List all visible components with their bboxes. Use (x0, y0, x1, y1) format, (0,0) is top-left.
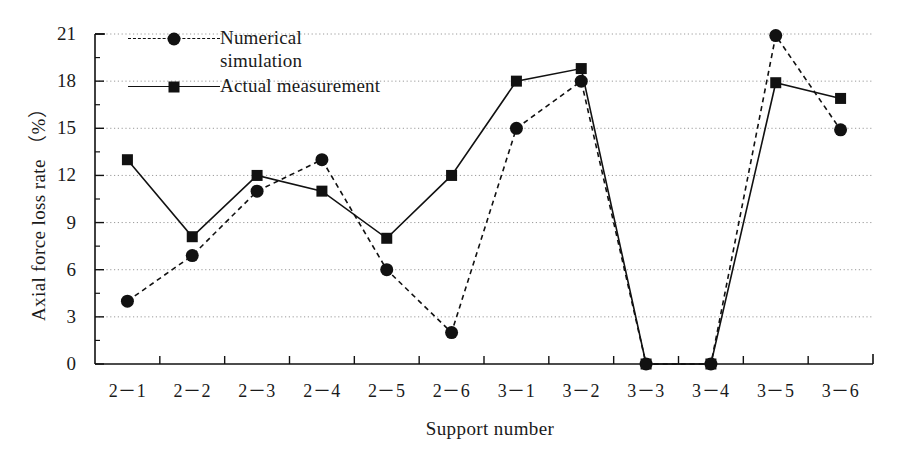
data-point-circle (445, 326, 458, 339)
x-tick-label: 2－5 (354, 376, 419, 402)
data-point-circle (769, 29, 782, 42)
legend-label-line1: Numerical (220, 27, 302, 48)
x-tick-label: 3－2 (549, 376, 614, 402)
x-axis-tick-labels: 2－12－22－32－42－52－63－13－23－33－43－53－6 (95, 376, 873, 402)
data-point-square (122, 154, 133, 165)
legend-item-actual-measurement: Actual measurement (128, 74, 428, 98)
series-line (127, 69, 840, 364)
x-tick-label: 2－2 (160, 376, 225, 402)
data-point-square (835, 93, 846, 104)
legend-label-numerical-simulation: Numerical simulation (220, 26, 302, 72)
axial-force-loss-rate-chart: Axial force loss rate （%） 036912151821 2… (0, 0, 909, 457)
data-point-square (252, 170, 263, 181)
x-tick-label: 3－3 (614, 376, 679, 402)
series-square (122, 63, 846, 369)
data-point-circle (251, 185, 264, 198)
x-tick-label: 2－1 (95, 376, 160, 402)
y-tick-label: 0 (42, 353, 76, 375)
x-tick-label: 3－4 (678, 376, 743, 402)
chart-legend: Numerical simulation Actual measurement (128, 26, 428, 100)
y-tick-label: 18 (42, 70, 76, 92)
x-axis-title: Support number (95, 418, 885, 440)
x-tick-label: 3－5 (743, 376, 808, 402)
x-tick-label: 2－4 (289, 376, 354, 402)
data-point-square (446, 170, 457, 181)
legend-item-numerical-simulation: Numerical simulation (128, 26, 428, 72)
data-point-square (641, 359, 652, 370)
y-tick-label: 12 (42, 164, 76, 186)
data-point-circle (186, 249, 199, 262)
data-point-square (187, 231, 198, 242)
data-point-square (511, 76, 522, 87)
legend-marker-square-solid-icon (128, 76, 220, 98)
legend-label-line2: simulation (220, 50, 302, 71)
legend-label-actual-measurement: Actual measurement (220, 74, 380, 97)
data-point-square (576, 63, 587, 74)
y-tick-label: 9 (42, 212, 76, 234)
x-tick-label: 3－6 (808, 376, 873, 402)
x-tick-label: 2－3 (225, 376, 290, 402)
y-tick-label: 15 (42, 117, 76, 139)
data-point-square (705, 359, 716, 370)
data-point-circle (834, 123, 847, 136)
x-tick-label: 3－1 (484, 376, 549, 402)
data-point-circle (510, 122, 523, 135)
y-tick-label: 6 (42, 259, 76, 281)
data-point-circle (380, 263, 393, 276)
data-point-square (316, 186, 327, 197)
data-point-square (770, 77, 781, 88)
legend-marker-circle-dashed-icon (128, 28, 220, 50)
data-point-circle (121, 295, 134, 308)
x-tick-label: 2－6 (419, 376, 484, 402)
y-tick-label: 3 (42, 306, 76, 328)
y-tick-label: 21 (42, 23, 76, 45)
data-point-square (381, 233, 392, 244)
y-axis-tick-labels: 036912151821 (38, 0, 76, 457)
data-point-circle (315, 153, 328, 166)
